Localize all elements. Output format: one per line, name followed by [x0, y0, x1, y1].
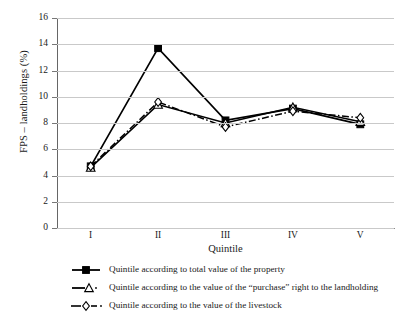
- y-tick-label: 2: [26, 197, 48, 207]
- y-tick-label: 8: [26, 118, 48, 128]
- gridline: [57, 97, 394, 98]
- legend-item[interactable]: Quintile according to the value of the l…: [70, 297, 282, 315]
- y-tick-label: 16: [26, 13, 48, 23]
- plot-area: [57, 18, 394, 228]
- legend-marker-filled-square-icon: [70, 262, 106, 278]
- gridline: [57, 228, 394, 229]
- y-tick-label: 12: [26, 66, 48, 76]
- y-axis-tick-labels: 0246810121416: [26, 12, 48, 228]
- x-tick-label: I: [89, 231, 92, 241]
- gridline: [57, 18, 394, 19]
- series-line: [91, 102, 361, 166]
- y-tick-mark: [52, 97, 57, 98]
- y-tick-label: 4: [26, 171, 48, 181]
- plot-block: FPS – landholdings (%) 0246810121416 III…: [0, 0, 410, 258]
- y-tick-mark: [52, 71, 57, 72]
- y-tick-mark: [52, 44, 57, 45]
- x-tick-label: IV: [288, 231, 298, 241]
- gridline: [57, 149, 394, 150]
- x-axis-label: Quintile: [57, 243, 394, 254]
- y-tick-label: 0: [26, 223, 48, 233]
- legend-label: Quintile according to the value of the l…: [109, 301, 282, 310]
- y-tick-label: 6: [26, 145, 48, 155]
- y-tick-mark: [52, 149, 57, 150]
- legend-label: Quintile according to total value of the…: [109, 265, 285, 274]
- gridline: [57, 44, 394, 45]
- data-point-marker: [85, 284, 94, 292]
- legend-marker-open-diamond-icon: [70, 298, 106, 314]
- chart-figure: FPS – landholdings (%) 0246810121416 III…: [0, 0, 410, 320]
- chart-legend: Quintile according to total value of the…: [0, 261, 410, 320]
- gridline: [57, 176, 394, 177]
- gridline: [57, 123, 394, 124]
- legend-item[interactable]: Quintile according to total value of the…: [70, 261, 285, 279]
- x-tick-label: III: [221, 231, 231, 241]
- y-tick-mark: [52, 176, 57, 177]
- legend-item[interactable]: Quintile according to the value of the “…: [70, 279, 378, 297]
- gridline: [57, 71, 394, 72]
- y-tick-label: 10: [26, 92, 48, 102]
- x-tick-label: V: [357, 231, 364, 241]
- legend-label: Quintile according to the value of the “…: [109, 283, 378, 292]
- data-point-marker: [155, 45, 162, 52]
- y-tick-label: 14: [26, 40, 48, 50]
- data-point-marker: [83, 302, 90, 311]
- data-point-marker: [83, 267, 90, 274]
- y-tick-mark: [52, 228, 57, 229]
- x-tick-label: II: [155, 231, 161, 241]
- gridline: [57, 202, 394, 203]
- y-tick-mark: [52, 202, 57, 203]
- y-tick-mark: [52, 123, 57, 124]
- legend-marker-open-triangle-icon: [70, 280, 106, 296]
- y-tick-mark: [52, 18, 57, 19]
